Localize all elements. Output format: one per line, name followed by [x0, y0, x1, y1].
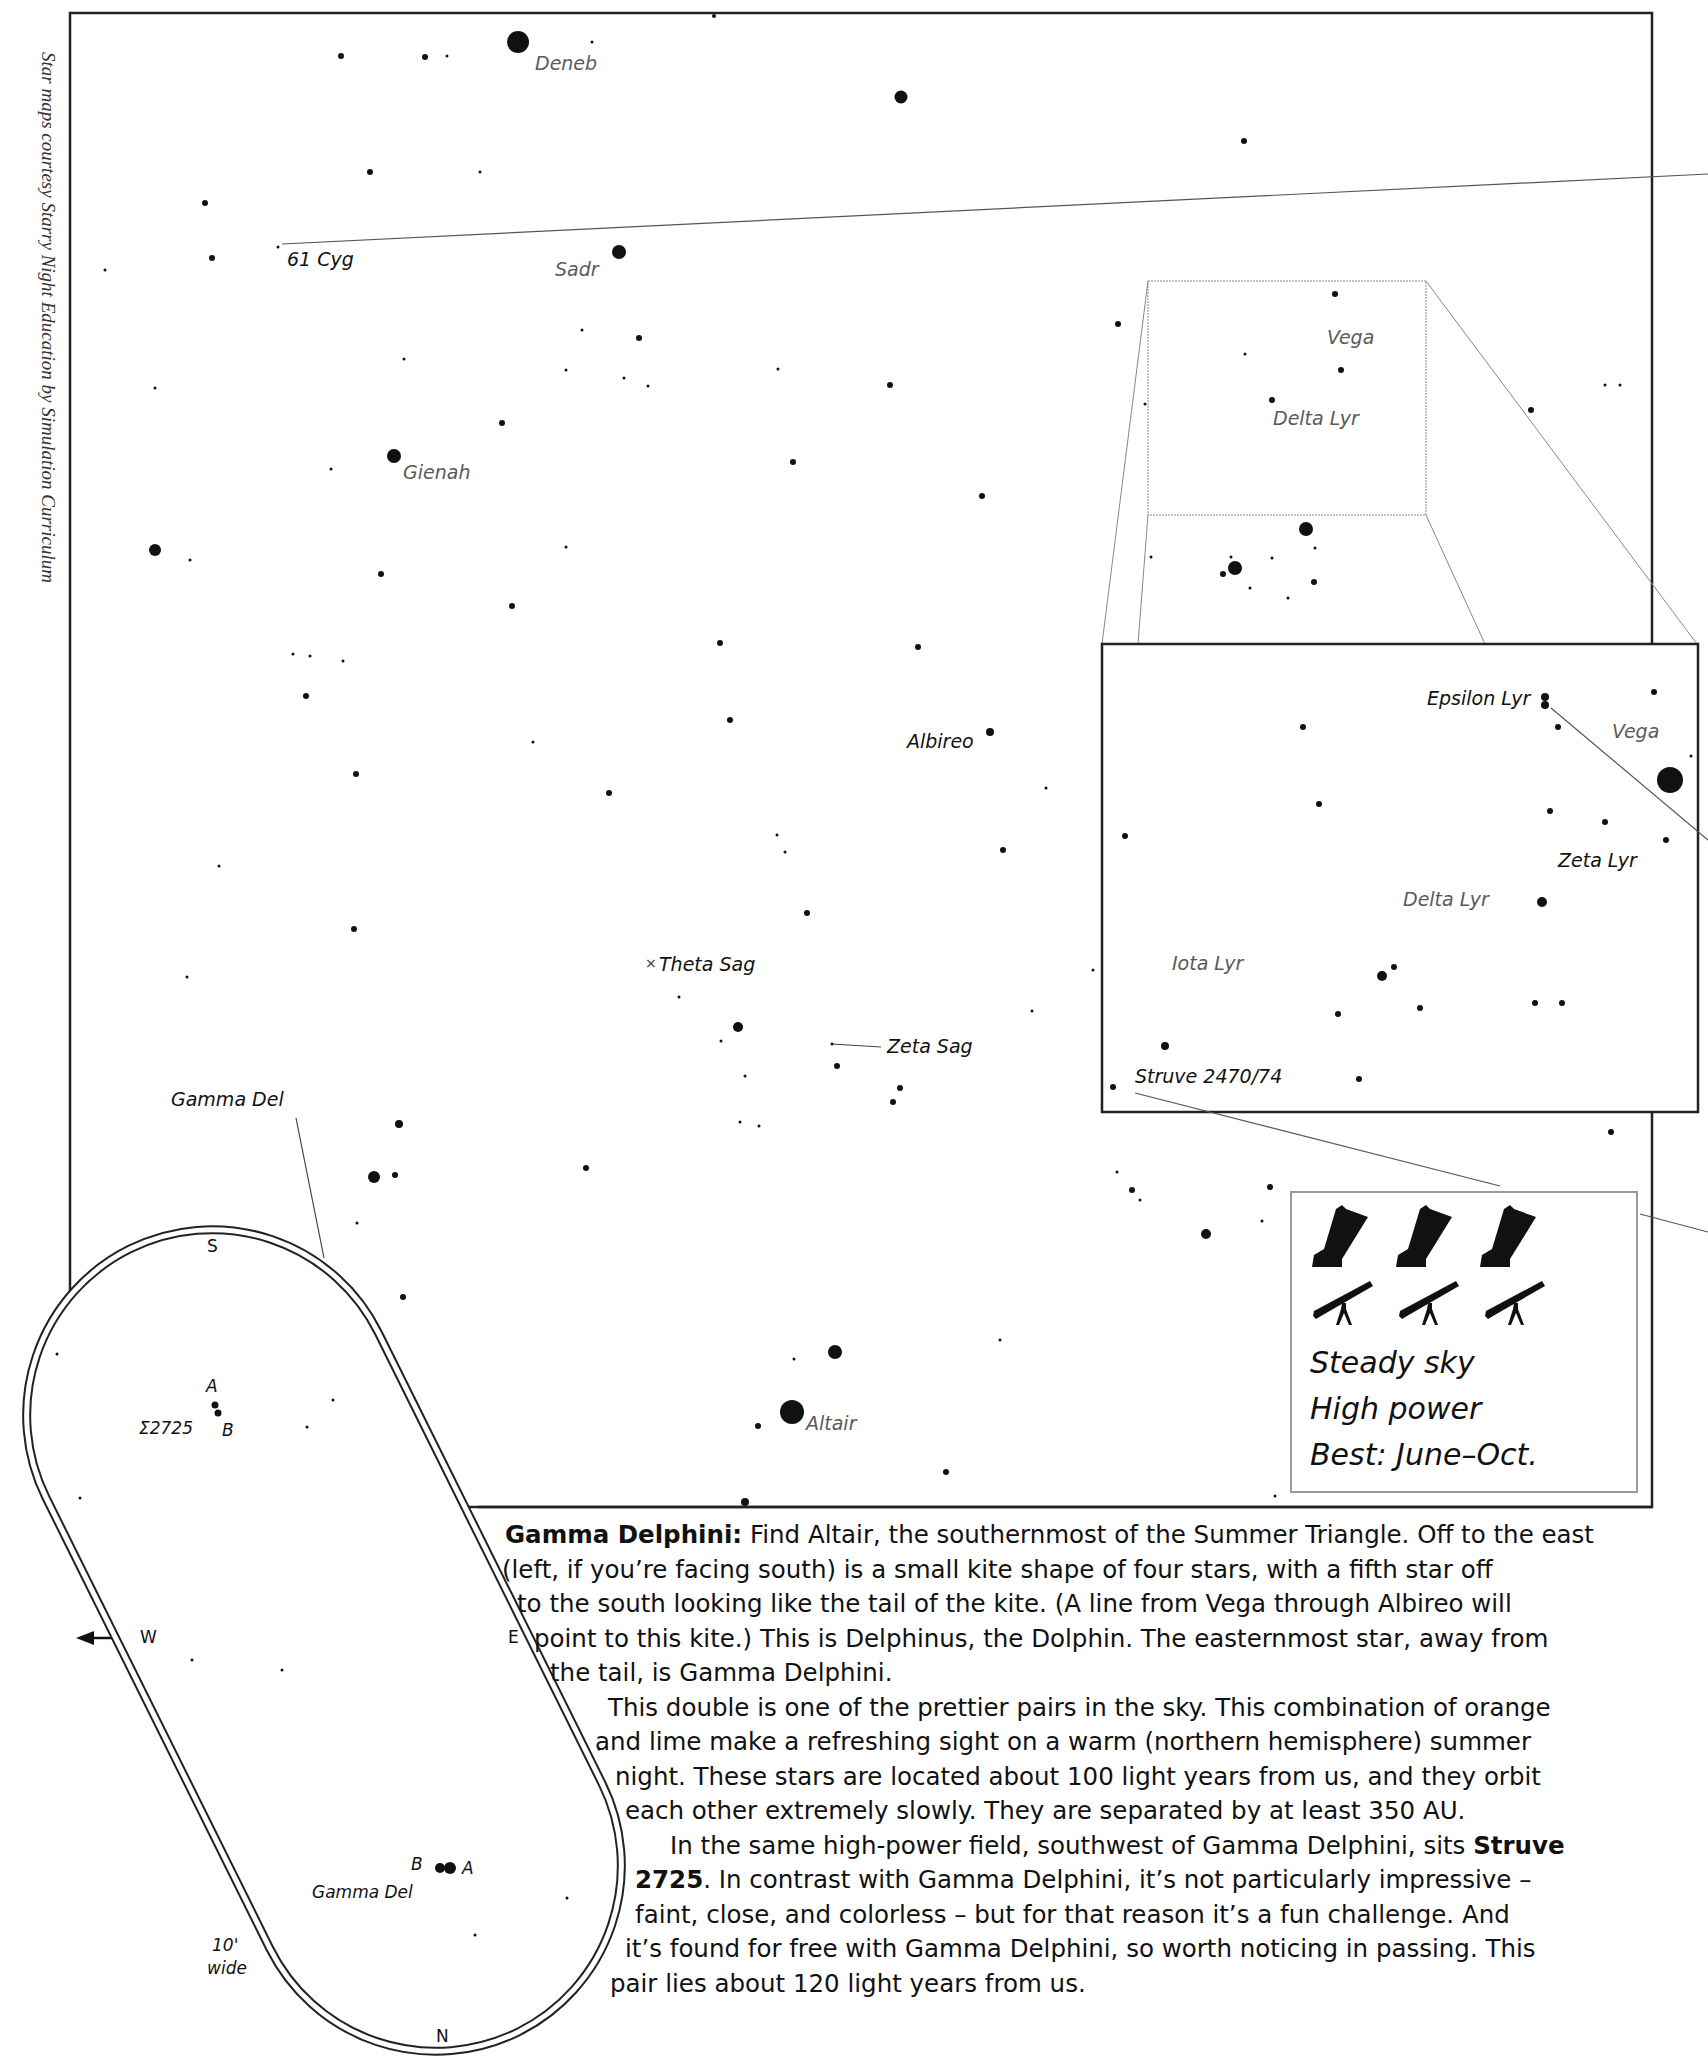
field-width-value: 10': [212, 1937, 238, 1954]
star-label: 61 Cyg: [287, 250, 354, 269]
dobsonian-icons: [1312, 1205, 1540, 1267]
description-line: to the south looking like the tail of th…: [517, 1587, 1512, 1622]
description-line: This double is one of the prettier pairs…: [608, 1691, 1551, 1726]
refractor-icons: [1312, 1275, 1546, 1331]
star-label: Deneb: [535, 54, 597, 73]
star-label: Delta Lyr: [1403, 890, 1489, 909]
description-line: point to this kite.) This is Delphinus, …: [534, 1622, 1548, 1657]
star-label: Gamma Del: [171, 1090, 284, 1109]
star: [566, 1897, 569, 1900]
star: [444, 1862, 456, 1874]
star-label: Iota Lyr: [1172, 954, 1243, 973]
star-label: Gienah: [403, 463, 470, 482]
star: [332, 1399, 335, 1402]
description-line: Gamma Delphini: Find Altair, the souther…: [505, 1518, 1594, 1553]
description-line: each other extremely slowly. They are se…: [625, 1794, 1465, 1829]
description-line: In the same high-power field, southwest …: [670, 1829, 1565, 1864]
star: [191, 1659, 194, 1662]
star-label: Gamma Del: [312, 1884, 413, 1901]
star-label: B: [411, 1856, 423, 1873]
description-line: pair lies about 120 light years from us.: [610, 1967, 1086, 2002]
star: [56, 1353, 59, 1356]
description-line: (left, if you’re facing south) is a smal…: [502, 1553, 1493, 1588]
map-credit: Star maps courtesy Starry Night Educatio…: [33, 52, 59, 672]
condition-season: Best: June–Oct.: [1310, 1437, 1538, 1472]
star: [215, 1410, 222, 1417]
description-line: the tail, is Gamma Delphini.: [550, 1656, 892, 1691]
field-width-unit: wide: [207, 1960, 247, 1977]
compass-south: S: [207, 1236, 218, 1256]
star-label: Vega: [1612, 722, 1659, 741]
star-label: Delta Lyr: [1273, 409, 1359, 428]
description-line: faint, close, and colorless – but for th…: [635, 1898, 1510, 1933]
star-label: Altair: [806, 1414, 856, 1433]
compass-east: E: [508, 1627, 519, 1647]
star-label: Struve 2470/74: [1135, 1067, 1282, 1086]
condition-power: High power: [1310, 1391, 1481, 1426]
star-label: Theta Sag: [659, 955, 755, 974]
description-line: and lime make a refreshing sight on a wa…: [595, 1725, 1531, 1760]
star-label: Zeta Sag: [887, 1037, 973, 1056]
star-label: Zeta Lyr: [1558, 851, 1637, 870]
star-label: B: [222, 1422, 234, 1439]
dobsonian-telescope-icon: [1396, 1205, 1456, 1267]
star: [306, 1426, 309, 1429]
star-label: A: [462, 1860, 474, 1877]
dobsonian-telescope-icon: [1312, 1205, 1372, 1267]
dobsonian-telescope-icon: [1480, 1205, 1540, 1267]
description-line: 2725. In contrast with Gamma Delphini, i…: [635, 1863, 1531, 1898]
star-label: Albireo: [907, 732, 974, 751]
description-line: it’s found for free with Gamma Delphini,…: [625, 1932, 1536, 1967]
star: [474, 1934, 477, 1937]
description-line: night. These stars are located about 100…: [615, 1760, 1541, 1795]
star-label: A: [206, 1378, 218, 1395]
compass-north: N: [436, 2026, 449, 2046]
star-label: Epsilon Lyr: [1427, 689, 1530, 708]
star: [79, 1497, 82, 1500]
star-label: Σ2725: [139, 1420, 193, 1437]
compass-west: W: [140, 1627, 157, 1647]
star: [212, 1402, 219, 1409]
condition-seeing: Steady sky: [1310, 1345, 1475, 1380]
star: [281, 1669, 284, 1672]
star-label: Vega: [1327, 328, 1374, 347]
star: [435, 1863, 445, 1873]
refractor-telescope-icon: [1484, 1275, 1546, 1331]
star-label: Sadr: [555, 260, 599, 279]
refractor-telescope-icon: [1312, 1275, 1374, 1331]
refractor-telescope-icon: [1398, 1275, 1460, 1331]
observing-conditions-box: Steady sky High power Best: June–Oct.: [1290, 1191, 1638, 1493]
